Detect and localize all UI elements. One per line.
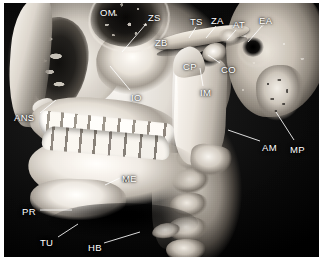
ct-figure: OMZSZBTSZAATEACPCOIMIOANSAMMPMEPRTUHB xyxy=(0,0,323,260)
leader-line-ans xyxy=(40,100,56,113)
leader-line-am xyxy=(228,130,260,141)
ct-image-frame: OMZSZBTSZAATEACPCOIMIOANSAMMPMEPRTUHB xyxy=(4,3,319,257)
anatomy-label-om: OM xyxy=(100,8,116,18)
annotation-overlay: OMZSZBTSZAATEACPCOIMIOANSAMMPMEPRTUHB xyxy=(4,3,319,257)
anatomy-label-io: IO xyxy=(131,93,142,103)
leader-line-co xyxy=(208,55,220,63)
anatomy-label-za: ZA xyxy=(211,16,224,26)
leader-line-at xyxy=(227,30,236,40)
anatomy-label-zb: ZB xyxy=(155,38,168,48)
anatomy-label-co: CO xyxy=(221,65,236,75)
anatomy-label-ea: EA xyxy=(259,16,272,26)
anatomy-label-ts: TS xyxy=(190,17,203,27)
leader-line-im xyxy=(200,68,203,86)
anatomy-label-pr: PR xyxy=(22,207,36,217)
leader-line-ts xyxy=(189,27,196,38)
anatomy-label-cp: CP xyxy=(183,62,197,72)
leader-line-mp xyxy=(276,112,294,140)
leader-line-zs xyxy=(122,24,146,52)
anatomy-label-am: AM xyxy=(262,143,277,153)
leader-line-me xyxy=(105,178,120,185)
anatomy-label-mp: MP xyxy=(290,145,305,155)
leader-line-hb xyxy=(104,232,140,243)
leader-line-tu xyxy=(58,224,78,237)
leader-line-za xyxy=(206,26,216,38)
anatomy-label-zs: ZS xyxy=(148,13,161,23)
leader-line-ea xyxy=(248,26,262,42)
anatomy-label-at: AT xyxy=(233,20,245,30)
anatomy-label-me: ME xyxy=(122,174,137,184)
anatomy-label-im: IM xyxy=(200,88,211,98)
anatomy-label-hb: HB xyxy=(88,243,102,253)
anatomy-label-ans: ANS xyxy=(14,113,34,123)
anatomy-label-tu: TU xyxy=(40,238,53,248)
leader-line-io xyxy=(110,66,130,90)
